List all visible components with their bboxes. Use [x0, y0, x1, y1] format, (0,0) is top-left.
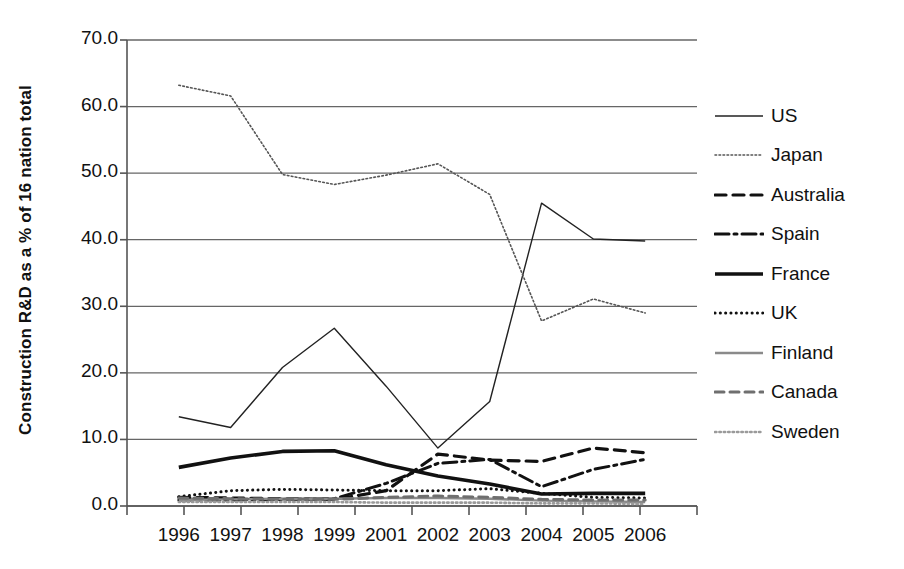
legend-swatch-icon — [714, 109, 764, 123]
chart-legend: USJapanAustraliaSpainFranceUKFinlandCana… — [714, 96, 900, 452]
legend-swatch-icon — [714, 148, 764, 162]
legend-label: Sweden — [771, 421, 840, 443]
legend-label: Spain — [771, 223, 820, 245]
legend-label: France — [771, 263, 830, 285]
legend-swatch-icon — [714, 188, 764, 202]
legend-item-sweden[interactable]: Sweden — [714, 412, 900, 452]
legend-item-canada[interactable]: Canada — [714, 373, 900, 413]
legend-item-finland[interactable]: Finland — [714, 333, 900, 373]
legend-label: UK — [771, 302, 797, 324]
legend-item-spain[interactable]: Spain — [714, 215, 900, 255]
legend-label: US — [771, 105, 797, 127]
legend-item-japan[interactable]: Japan — [714, 136, 900, 176]
legend-swatch-icon — [714, 346, 764, 360]
legend-swatch-icon — [714, 425, 764, 439]
legend-swatch-icon — [714, 385, 764, 399]
legend-label: Canada — [771, 381, 838, 403]
legend-swatch-icon — [714, 267, 764, 281]
legend-item-uk[interactable]: UK — [714, 294, 900, 334]
series-line-japan — [179, 85, 645, 321]
legend-label: Japan — [771, 144, 823, 166]
legend-item-us[interactable]: US — [714, 96, 900, 136]
legend-swatch-icon — [714, 306, 764, 320]
x-tick-label: 2006 — [613, 524, 677, 546]
legend-item-australia[interactable]: Australia — [714, 175, 900, 215]
chart-figure: Construction R&D as a % of 16 nation tot… — [0, 0, 904, 569]
series-line-sweden — [179, 502, 645, 504]
legend-label: Australia — [771, 184, 845, 206]
legend-label: Finland — [771, 342, 833, 364]
legend-item-france[interactable]: France — [714, 254, 900, 294]
legend-swatch-icon — [714, 227, 764, 241]
